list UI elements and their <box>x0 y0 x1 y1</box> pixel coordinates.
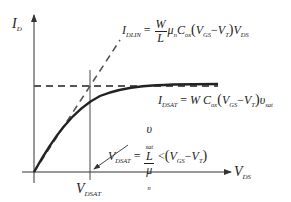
x-axis-label: VDS <box>234 165 251 181</box>
idsat-equals: = <box>180 93 187 107</box>
idlin-c: C <box>177 23 185 37</box>
idlin-vgs: V <box>196 23 203 37</box>
idlin-vds-sub: DS <box>241 31 249 38</box>
vdsat-frac-den: μn <box>144 164 154 191</box>
idlin-vgs-sub: GS <box>203 31 211 38</box>
vdsat-axis-label-sub: DSAT <box>85 190 101 198</box>
vdsat-vgs-sub: GS <box>177 157 185 164</box>
vdsat-axis-label: VDSAT <box>76 182 101 198</box>
idlin-frac-den: L <box>155 32 167 45</box>
y-axis-label-sub: D <box>17 25 22 33</box>
idsat-lhs-sub: DSAT <box>162 101 177 108</box>
vdsat-lt: < <box>158 149 165 163</box>
vdsat-paren-close: ) <box>203 148 208 163</box>
vdsat-frac-num: υsatL <box>144 123 154 164</box>
y-axis-label: ID <box>12 17 22 33</box>
x-axis-label-sub: DS <box>243 173 252 181</box>
idlin-equation: IDLIN = W L μnCox(VGS−VT)VDS <box>122 18 249 44</box>
idsat-c: C <box>203 93 211 107</box>
idlin-fraction: W L <box>155 18 167 44</box>
idsat-w: W <box>190 93 200 107</box>
x-axis-label-main: V <box>234 164 243 179</box>
vdsat-vgs: V <box>169 149 176 163</box>
idsat-v-sub: sat <box>265 101 273 108</box>
vdsat-den-mu-sub: n <box>148 184 151 191</box>
vdsat-vt: V <box>192 149 199 163</box>
vdsat-equals: = <box>134 149 141 163</box>
vdsat-minus: − <box>185 149 192 163</box>
vdsat-axis-label-main: V <box>76 181 85 196</box>
vdsat-num-v: υ <box>145 123 153 136</box>
vdsat-fraction: υsatL μn <box>144 123 154 191</box>
idlin-lhs-sub: DLIN <box>126 31 141 38</box>
idlin-vds: V <box>233 23 240 37</box>
idsat-minus: − <box>237 93 244 107</box>
idsat-equation: IDSAT = W Cox(VGS−VT)υsat <box>158 93 273 109</box>
idlin-frac-num: W <box>155 18 167 32</box>
vdsat-num-l: L <box>145 150 153 163</box>
idlin-minus: − <box>211 23 218 37</box>
vdsat-den-mu: μ <box>144 164 154 177</box>
vdsat-lhs-sub: DSAT <box>115 157 130 164</box>
idlin-equals: = <box>144 23 151 37</box>
idsat-vgs-sub: GS <box>229 101 237 108</box>
vdsat-equation: VDSAT = υsatL μn <(VGS−VT) <box>108 123 207 191</box>
